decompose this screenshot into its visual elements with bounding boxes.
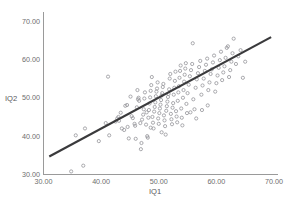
- scatter-point: [160, 131, 163, 134]
- scatter-point: [156, 81, 159, 84]
- scatter-point: [162, 82, 165, 85]
- regression-line: [49, 37, 271, 156]
- scatter-point: [192, 98, 195, 101]
- scatter-point: [168, 77, 171, 80]
- scatter-point: [201, 84, 204, 87]
- scatter-point: [186, 92, 189, 95]
- scatter-points: [70, 37, 247, 173]
- scatter-point: [199, 59, 202, 62]
- scatter-point: [189, 69, 192, 72]
- scatter-point: [224, 56, 227, 59]
- scatter-point: [142, 113, 145, 116]
- scatter-point: [158, 112, 161, 115]
- scatter-point: [180, 107, 183, 110]
- scatter-point: [155, 87, 158, 90]
- scatter-point: [232, 37, 235, 40]
- scatter-point: [191, 42, 194, 45]
- scatter-point: [215, 82, 218, 85]
- scatter-point: [174, 70, 177, 73]
- scatter-point: [170, 118, 173, 121]
- scatter-point: [176, 99, 179, 102]
- scatter-point: [218, 59, 221, 62]
- scatter-point: [179, 64, 182, 67]
- scatter-point: [134, 137, 137, 140]
- scatter-point: [147, 108, 150, 111]
- scatter-point: [180, 116, 183, 119]
- scatter-point: [104, 121, 107, 124]
- y-axis-title: IQ2: [5, 94, 17, 103]
- scatter-point: [183, 73, 186, 76]
- scatter-point: [234, 62, 237, 65]
- scatter-point: [196, 72, 199, 75]
- scatter-point: [157, 122, 160, 125]
- scatter-point: [184, 67, 187, 70]
- y-tick-label: 40.00: [22, 132, 40, 141]
- scatter-point: [150, 83, 153, 86]
- scatter-point: [157, 117, 160, 120]
- scatter-point: [181, 124, 184, 127]
- scatter-point: [144, 123, 147, 126]
- scatter-point: [70, 170, 73, 173]
- scatter-point: [207, 88, 210, 91]
- scatter-point: [172, 102, 175, 105]
- scatter-point: [136, 88, 139, 91]
- scatter-point: [74, 134, 77, 137]
- x-tick-label: 60.00: [207, 177, 225, 186]
- x-tick-label: 30.00: [35, 177, 53, 186]
- scatter-point: [165, 105, 168, 108]
- scatter-point: [129, 95, 132, 98]
- scatter-point: [181, 96, 184, 99]
- scatter-point: [241, 76, 244, 79]
- scatter-point: [175, 115, 178, 118]
- scatter-point: [206, 104, 209, 107]
- y-axis-tick-labels: 30.0040.0050.0060.0070.00: [22, 17, 40, 180]
- scatter-point: [200, 93, 203, 96]
- scatter-point: [195, 117, 198, 120]
- scatter-point: [202, 77, 205, 80]
- scatter-point: [147, 116, 150, 119]
- scatter-point: [239, 49, 242, 52]
- scatter-point: [229, 69, 232, 72]
- scatter-point: [212, 54, 215, 57]
- plot-svg: 30.0040.0050.0060.0070.00 30.0040.0050.0…: [0, 0, 285, 202]
- scatter-point: [191, 62, 194, 65]
- scatter-point: [174, 110, 177, 113]
- scatter-point: [231, 52, 234, 55]
- scatter-point: [216, 74, 219, 77]
- scatter-point: [197, 65, 200, 68]
- scatter-point: [164, 133, 167, 136]
- scatter-point: [159, 98, 162, 101]
- scatter-point: [188, 75, 191, 78]
- scatter-point: [185, 102, 188, 105]
- scatter-point: [166, 100, 169, 103]
- scatter-point: [178, 69, 181, 72]
- y-tick-label: 70.00: [22, 17, 40, 26]
- scatter-point: [214, 90, 217, 93]
- scatter-point: [208, 81, 211, 84]
- scatter-point: [173, 79, 176, 82]
- scatter-point: [119, 111, 122, 114]
- scatter-point: [143, 91, 146, 94]
- y-tick-label: 60.00: [22, 55, 40, 64]
- x-tick-label: 40.00: [92, 177, 110, 186]
- scatter-point: [169, 72, 172, 75]
- scatter-point: [182, 88, 185, 91]
- x-tick-label: 70.00: [265, 177, 283, 186]
- scatter-point: [165, 109, 168, 112]
- scatter-point: [200, 108, 203, 111]
- y-tick-label: 50.00: [22, 93, 40, 102]
- scatter-point: [211, 61, 214, 64]
- scatter-point: [153, 105, 156, 108]
- scatter-point: [227, 75, 230, 78]
- scatter-point: [140, 118, 143, 121]
- scatter-point: [170, 123, 173, 126]
- scatter-point: [127, 137, 130, 140]
- scatter-point: [184, 62, 187, 65]
- scatter-point: [189, 111, 192, 114]
- scatter-point: [106, 75, 109, 78]
- scatter-point: [158, 107, 161, 110]
- scatter-point: [149, 96, 152, 99]
- scatter-plot-chart: 30.0040.0050.0060.0070.00 30.0040.0050.0…: [0, 0, 285, 202]
- scatter-point: [162, 114, 165, 117]
- scatter-point: [161, 85, 164, 88]
